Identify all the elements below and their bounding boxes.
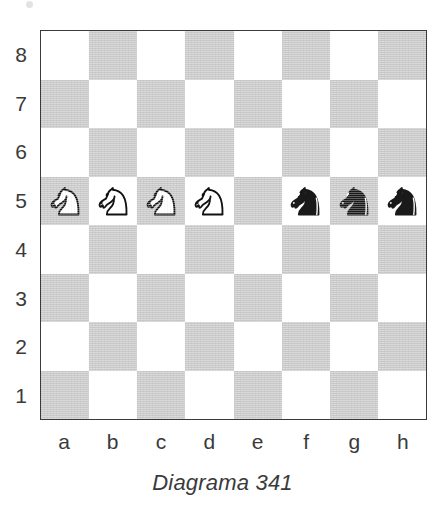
white-knight-icon[interactable] (185, 177, 233, 226)
square-h5[interactable] (378, 177, 426, 226)
black-knight-icon[interactable] (282, 177, 330, 226)
square-f1[interactable] (282, 371, 330, 420)
square-h4[interactable] (378, 225, 426, 274)
square-b3[interactable] (89, 274, 137, 323)
square-a2[interactable] (41, 322, 89, 371)
square-b4[interactable] (89, 225, 137, 274)
rank-label-6: 6 (0, 128, 34, 177)
square-a7[interactable] (41, 80, 89, 129)
square-b7[interactable] (89, 80, 137, 129)
square-h3[interactable] (378, 274, 426, 323)
square-g2[interactable] (330, 322, 378, 371)
rank-label-2: 2 (0, 323, 34, 372)
square-b1[interactable] (89, 371, 137, 420)
square-d2[interactable] (185, 322, 233, 371)
square-e4[interactable] (234, 225, 282, 274)
square-g6[interactable] (330, 128, 378, 177)
square-d8[interactable] (185, 31, 233, 80)
square-e7[interactable] (234, 80, 282, 129)
square-g7[interactable] (330, 80, 378, 129)
white-knight-icon[interactable] (137, 177, 185, 226)
square-d7[interactable] (185, 80, 233, 129)
square-f2[interactable] (282, 322, 330, 371)
square-d4[interactable] (185, 225, 233, 274)
square-c2[interactable] (137, 322, 185, 371)
square-c1[interactable] (137, 371, 185, 420)
square-f4[interactable] (282, 225, 330, 274)
square-c3[interactable] (137, 274, 185, 323)
black-knight-icon[interactable] (330, 177, 378, 226)
square-c5[interactable] (137, 177, 185, 226)
square-h7[interactable] (378, 80, 426, 129)
square-f8[interactable] (282, 31, 330, 80)
square-f7[interactable] (282, 80, 330, 129)
square-h6[interactable] (378, 128, 426, 177)
square-a8[interactable] (41, 31, 89, 80)
square-d3[interactable] (185, 274, 233, 323)
square-g1[interactable] (330, 371, 378, 420)
rank-labels: 8 7 6 5 4 3 2 1 (0, 30, 34, 420)
rank-label-5: 5 (0, 176, 34, 225)
square-e5[interactable] (234, 177, 282, 226)
rank-label-4: 4 (0, 225, 34, 274)
square-b6[interactable] (89, 128, 137, 177)
square-a6[interactable] (41, 128, 89, 177)
square-g8[interactable] (330, 31, 378, 80)
chessboard-wrapper (40, 30, 427, 420)
square-d1[interactable] (185, 371, 233, 420)
square-g3[interactable] (330, 274, 378, 323)
chess-diagram-figure: 8 7 6 5 4 3 2 1 a b c d e f g h Diagrama… (0, 0, 445, 514)
file-label-e: e (234, 424, 282, 458)
square-a4[interactable] (41, 225, 89, 274)
file-label-f: f (282, 424, 330, 458)
square-e3[interactable] (234, 274, 282, 323)
rank-label-8: 8 (0, 30, 34, 79)
file-label-c: c (137, 424, 185, 458)
square-h2[interactable] (378, 322, 426, 371)
square-f6[interactable] (282, 128, 330, 177)
square-e8[interactable] (234, 31, 282, 80)
square-a3[interactable] (41, 274, 89, 323)
square-a1[interactable] (41, 371, 89, 420)
square-h8[interactable] (378, 31, 426, 80)
square-d6[interactable] (185, 128, 233, 177)
square-b8[interactable] (89, 31, 137, 80)
square-f3[interactable] (282, 274, 330, 323)
square-b2[interactable] (89, 322, 137, 371)
file-label-d: d (185, 424, 233, 458)
chessboard (40, 30, 427, 420)
square-e2[interactable] (234, 322, 282, 371)
square-e6[interactable] (234, 128, 282, 177)
square-c8[interactable] (137, 31, 185, 80)
square-a5[interactable] (41, 177, 89, 226)
diagram-caption: Diagrama 341 (0, 470, 445, 496)
square-g4[interactable] (330, 225, 378, 274)
file-label-g: g (330, 424, 378, 458)
square-h1[interactable] (378, 371, 426, 420)
file-label-h: h (379, 424, 427, 458)
rank-label-3: 3 (0, 274, 34, 323)
square-f5[interactable] (282, 177, 330, 226)
square-c6[interactable] (137, 128, 185, 177)
square-g5[interactable] (330, 177, 378, 226)
square-d5[interactable] (185, 177, 233, 226)
scan-artifact-speck (26, 1, 33, 8)
square-b5[interactable] (89, 177, 137, 226)
black-knight-icon[interactable] (378, 177, 426, 226)
square-c7[interactable] (137, 80, 185, 129)
square-c4[interactable] (137, 225, 185, 274)
square-e1[interactable] (234, 371, 282, 420)
file-label-b: b (88, 424, 136, 458)
white-knight-icon[interactable] (89, 177, 137, 226)
rank-label-1: 1 (0, 371, 34, 420)
white-knight-icon[interactable] (41, 177, 89, 226)
rank-label-7: 7 (0, 79, 34, 128)
file-labels: a b c d e f g h (40, 424, 427, 458)
file-label-a: a (40, 424, 88, 458)
